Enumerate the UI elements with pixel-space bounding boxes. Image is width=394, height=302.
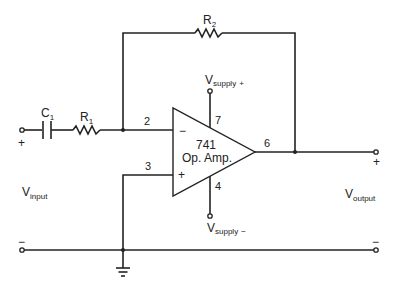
vinput-label: Vinput — [22, 185, 48, 201]
r2-label: R2 — [203, 13, 217, 29]
pin-7-positive-supply — [208, 89, 212, 128]
output-wire — [255, 150, 378, 154]
c1-label: C1 — [41, 106, 55, 122]
output-plus-sign: + — [373, 155, 380, 169]
capacitor-c1 — [43, 121, 73, 139]
pin-7-label: 7 — [215, 114, 221, 126]
opamp-inverting-sign: − — [179, 124, 186, 138]
pin-6-label: 6 — [264, 137, 270, 149]
r1-label: R1 — [80, 110, 94, 126]
output-minus-sign: − — [372, 235, 379, 249]
opamp-model-label: 741 — [196, 138, 216, 152]
ground-icon — [116, 268, 130, 276]
pin-2-label: 2 — [144, 115, 150, 127]
vsupply-positive-label: Vsupply+ — [205, 73, 244, 88]
input-plus-sign: + — [18, 136, 25, 150]
pin-4-negative-supply — [208, 176, 212, 218]
opamp-noninverting-sign: + — [178, 168, 185, 182]
vsupply-negative-label: Vsupply− — [207, 221, 246, 236]
ground-rail — [20, 248, 378, 252]
noninverting-wire — [123, 175, 173, 268]
op-amp-circuit-diagram: + C1 R1 2 R2 − + 741 Op. Amp. 7 Vsupply+… — [0, 0, 394, 302]
pin-3-label: 3 — [145, 160, 151, 172]
input-minus-sign: − — [18, 235, 25, 249]
voutput-label: Voutput — [345, 187, 376, 203]
pin-4-label: 4 — [215, 180, 221, 192]
opamp-type-label: Op. Amp. — [182, 151, 232, 165]
input-positive-terminal — [20, 128, 42, 132]
